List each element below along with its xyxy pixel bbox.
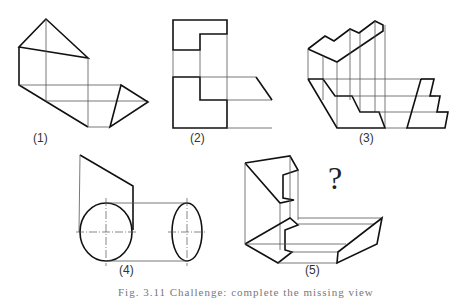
figure-label-5: (5) xyxy=(305,263,320,277)
figure-5 xyxy=(245,156,382,263)
figure-4 xyxy=(76,155,206,266)
figure-caption: Fig. 3.11 Challenge: complete the missin… xyxy=(118,286,374,298)
figure-label-4: (4) xyxy=(119,263,134,277)
question-mark: ? xyxy=(328,160,342,197)
figure-label-3: (3) xyxy=(359,131,374,145)
figure-label-1: (1) xyxy=(33,131,48,145)
figure-label-2: (2) xyxy=(190,131,205,145)
figure-2 xyxy=(173,20,272,128)
figure-3 xyxy=(308,21,448,128)
figure-1 xyxy=(19,19,148,127)
